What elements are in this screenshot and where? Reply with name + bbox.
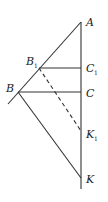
label-B1-sub: 1 xyxy=(34,62,38,69)
label-K1-sub: 1 xyxy=(94,135,98,142)
label-C: C xyxy=(86,87,95,100)
label-B: B xyxy=(5,82,14,95)
label-A: A xyxy=(85,16,94,29)
segment-B1K1-dashed xyxy=(39,68,81,131)
label-B1: B xyxy=(25,55,34,68)
segment-BK xyxy=(18,92,81,178)
label-C1-sub: 1 xyxy=(94,69,98,76)
geometry-diagram: A B 1 C 1 B C K 1 K xyxy=(0,0,108,202)
label-K: K xyxy=(85,173,95,186)
